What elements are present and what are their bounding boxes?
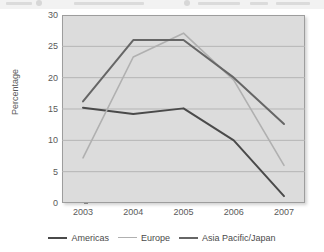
x-tick-label: 2005 (164, 207, 204, 217)
y-tick-label: 20 (36, 74, 58, 83)
series-line-americas (83, 108, 284, 196)
x-tick-label: 2003 (63, 207, 103, 217)
x-tick-label: 2006 (214, 207, 254, 217)
cropped-caption-strip (0, 0, 324, 9)
y-axis-tick-labels: 051015202530 (28, 9, 58, 209)
legend-item-europe[interactable]: Europe (118, 233, 170, 243)
chart-legend: AmericasEuropeAsia Pacific/Japan (0, 223, 324, 252)
y-tick-label: 0 (36, 199, 58, 208)
legend-swatch (118, 237, 137, 239)
legend-swatch (48, 237, 67, 239)
y-tick-label: 15 (36, 105, 58, 114)
legend-label: Asia Pacific/Japan (202, 233, 276, 243)
y-tick-label: 10 (36, 136, 58, 145)
legend-item-americas[interactable]: Americas (48, 233, 109, 243)
y-tick-mark (84, 203, 88, 204)
legend-label: Americas (71, 233, 109, 243)
x-tick-label: 2004 (113, 207, 153, 217)
legend-label: Europe (141, 233, 170, 243)
plot-lines-svg (62, 15, 305, 203)
y-axis-title: Percentage (10, 59, 20, 125)
y-tick-label: 30 (36, 11, 58, 20)
legend-item-asia-pacific-japan[interactable]: Asia Pacific/Japan (179, 233, 276, 243)
x-tick-label: 2007 (264, 207, 304, 217)
series-line-europe (83, 33, 284, 165)
line-chart-figure: Percentage 051015202530 2003200420052006… (0, 9, 324, 252)
chart-plot-region: Percentage 051015202530 2003200420052006… (0, 9, 324, 223)
y-tick-label: 25 (36, 42, 58, 51)
legend-swatch (179, 237, 198, 239)
y-tick-label: 5 (36, 168, 58, 177)
